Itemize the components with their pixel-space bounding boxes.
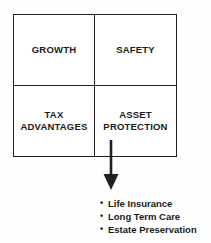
bullet-dot-icon: •: [100, 197, 108, 210]
outcome-label-long-term-care: Long Term Care: [108, 210, 211, 223]
quadrant-cell-safety: SAFETY: [95, 15, 176, 86]
list-item: • Estate Preservation: [100, 223, 211, 236]
list-item: • Life Insurance: [100, 197, 211, 210]
quadrant-diagram: GROWTH SAFETY TAX ADVANTAGES ASSET PROTE…: [0, 0, 211, 243]
quadrant-cell-tax-advantages: TAX ADVANTAGES: [14, 86, 95, 157]
outcome-label-life-insurance: Life Insurance: [108, 197, 211, 210]
quadrant-cell-asset-protection-label: ASSET PROTECTION: [103, 109, 167, 132]
outcomes-list: • Life Insurance • Long Term Care • Esta…: [100, 197, 211, 236]
quadrant-cell-safety-label: SAFETY: [116, 44, 155, 56]
list-item: • Long Term Care: [100, 210, 211, 223]
outcome-label-estate-preservation: Estate Preservation: [108, 223, 211, 236]
bullet-dot-icon: •: [100, 223, 108, 236]
quadrant-cell-tax-advantages-label: TAX ADVANTAGES: [20, 109, 87, 132]
down-arrow-icon: [99, 140, 123, 192]
bullet-dot-icon: •: [100, 210, 108, 223]
quadrant-matrix: GROWTH SAFETY TAX ADVANTAGES ASSET PROTE…: [13, 14, 177, 157]
quadrant-cell-growth-label: GROWTH: [32, 44, 76, 56]
quadrant-cell-growth: GROWTH: [14, 15, 95, 86]
